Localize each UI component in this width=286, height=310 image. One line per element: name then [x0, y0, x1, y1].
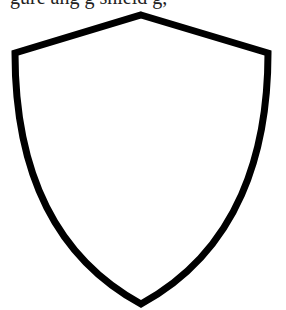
shield-outline	[15, 15, 268, 304]
shield-diagram	[0, 0, 286, 310]
shield-icon	[0, 0, 286, 310]
